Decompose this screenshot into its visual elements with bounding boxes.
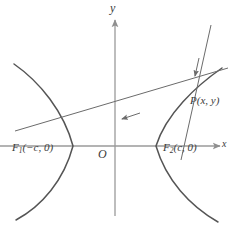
focus-left-coordinates: (−c, 0) (22, 141, 53, 153)
focus-left-label: F1(−c, 0) (12, 142, 53, 155)
point-p-coordinates: (x, y) (197, 94, 220, 106)
y-axis-label: y (110, 2, 115, 14)
steep-ray-arrowhead (195, 58, 199, 76)
figure-canvas (0, 0, 233, 232)
origin-label: O (98, 148, 107, 160)
focus-right-label: F2(c, 0) (163, 142, 197, 155)
point-p-label: P(x, y) (190, 95, 219, 106)
focus-right-name: F (163, 141, 170, 153)
hyperbola-figure: y x O F1(−c, 0) F2(c, 0) P(x, y) (0, 0, 233, 232)
x-axis-label: x (222, 139, 226, 149)
focus-left-name: F (12, 141, 19, 153)
point-p-name: P (190, 94, 197, 106)
focus-right-coordinates: (c, 0) (173, 141, 196, 153)
focal-ray-arrowhead (122, 113, 140, 119)
steep-ray-through-f2 (181, 25, 211, 160)
